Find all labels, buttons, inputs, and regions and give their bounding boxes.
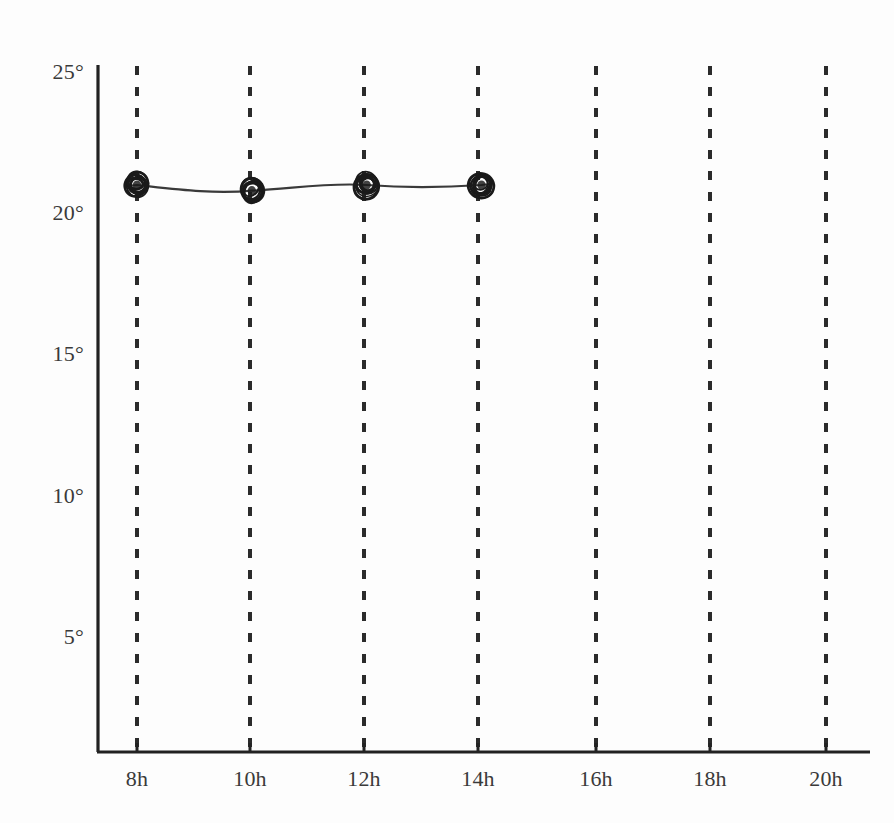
data-point-8h[interactable] [121,169,151,200]
x-tick-label-20h: 20h [809,766,843,792]
y-tick-label-25: 25° [28,59,84,85]
y-tick-label-5: 5° [28,624,84,650]
data-point-12h[interactable] [349,167,384,204]
data-point-14h[interactable] [465,170,497,202]
y-tick-label-15: 15° [28,341,84,367]
marker-core [477,180,485,189]
x-tick-label-18h: 18h [693,766,727,792]
gridlines-group [137,66,826,750]
temperature-line-chart: 5°10°15°20°25° 8h10h12h14h16h18h20h line [0,0,894,823]
chart-canvas [0,0,894,823]
marker-core [362,180,370,189]
data-point-10h[interactable] [237,174,268,206]
x-tick-label-12h: 12h [347,766,381,792]
y-tick-label-10: 10° [28,483,84,509]
x-tick-label-10h: 10h [233,766,267,792]
data-line-temperature [127,184,491,192]
y-tick-label-20: 20° [28,200,84,226]
x-tick-label-16h: 16h [579,766,613,792]
x-tick-label-8h: 8h [126,766,148,792]
axes-group [97,65,870,752]
data-series-group [121,167,497,206]
x-tick-label-14h: 14h [461,766,495,792]
marker-core [248,186,256,195]
marker-core [133,180,141,189]
